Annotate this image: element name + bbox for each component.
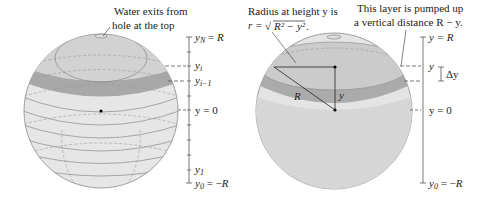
svg-text:y = 0: y = 0 bbox=[429, 104, 452, 116]
svg-text:This layer is pumped up: This layer is pumped up bbox=[357, 2, 464, 14]
svg-text:R² − y²: R² − y² bbox=[273, 20, 306, 32]
svg-text:.: . bbox=[306, 20, 309, 32]
svg-text:y0 = −R: y0 = −R bbox=[194, 177, 229, 191]
center-dot bbox=[99, 109, 102, 112]
svg-text:y = 0: y = 0 bbox=[195, 104, 218, 116]
svg-text:y0 = −R: y0 = −R bbox=[428, 177, 463, 191]
svg-text:yN = R: yN = R bbox=[194, 31, 224, 45]
svg-text:yi−1: yi−1 bbox=[194, 74, 212, 88]
svg-text:a vertical distance R − y.: a vertical distance R − y. bbox=[354, 16, 463, 28]
svg-text:y: y bbox=[428, 60, 434, 72]
top-hole bbox=[95, 34, 107, 38]
center-dot bbox=[333, 108, 336, 111]
right-sphere: R y bbox=[250, 33, 418, 198]
top-hole bbox=[327, 35, 341, 39]
svg-text:y = R: y = R bbox=[428, 31, 454, 43]
left-annotation: Water exits from hole at the top bbox=[103, 5, 188, 36]
svg-text:√: √ bbox=[265, 20, 272, 32]
left-sphere bbox=[20, 20, 182, 188]
svg-text:Δy: Δy bbox=[446, 68, 459, 80]
radius-label: R bbox=[293, 90, 301, 102]
left-axis-labels: yN = R yi yi−1 y = 0 y1 y0 = −R bbox=[194, 31, 229, 191]
svg-text:Radius at height y is: Radius at height y is bbox=[248, 5, 338, 17]
svg-text:Water exits from: Water exits from bbox=[114, 5, 188, 17]
height-label: y bbox=[338, 89, 344, 101]
svg-text:y1: y1 bbox=[194, 163, 204, 177]
svg-text:hole at the top: hole at the top bbox=[112, 19, 175, 31]
right-axis-labels: y = R y Δy y = 0 y0 = −R bbox=[428, 31, 463, 191]
sphere-pumping-figure: Water exits from hole at the top yN = R … bbox=[0, 0, 484, 198]
svg-text:yi: yi bbox=[194, 59, 202, 73]
svg-text:r =: r = bbox=[248, 19, 262, 31]
